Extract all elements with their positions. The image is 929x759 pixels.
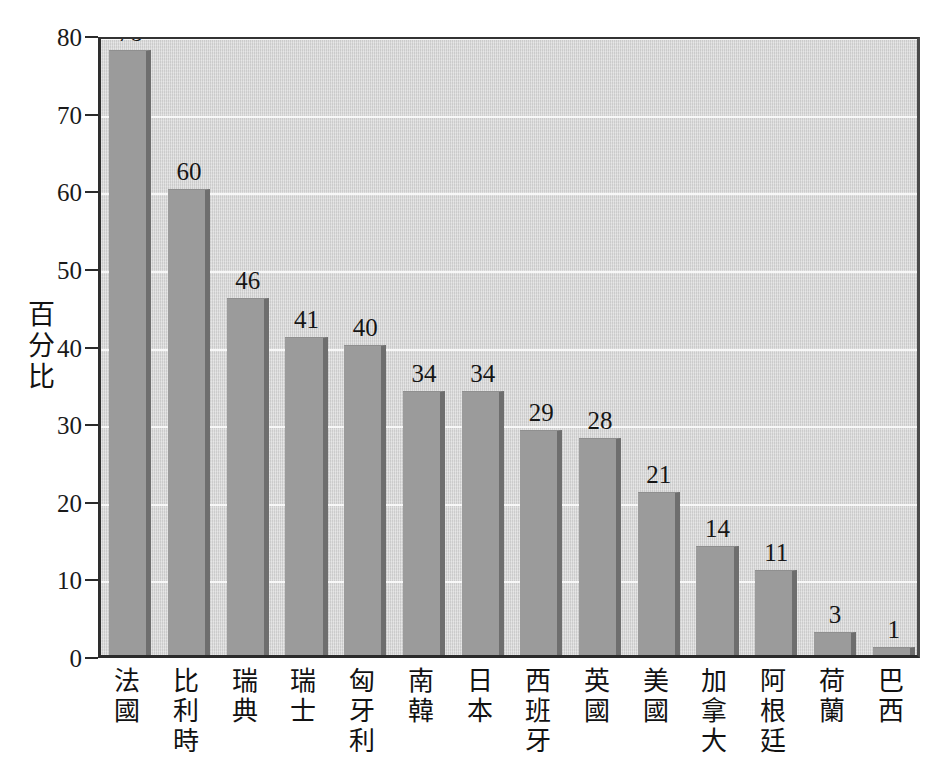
bar (814, 632, 856, 655)
bar-slot: 34 (403, 39, 445, 655)
x-axis-category-label: 阿 根 廷 (744, 666, 803, 756)
bar-series: 78604641403434292821141131 (101, 39, 917, 655)
bar (168, 189, 210, 655)
y-axis-tick-label: 60 (36, 180, 82, 205)
y-axis-tick-mark (85, 502, 98, 504)
x-axis-category-label: 法 國 (98, 666, 157, 726)
bar (579, 438, 621, 655)
bar (873, 647, 915, 655)
bar (696, 546, 738, 655)
bar-chart: 百分比 01020304050607080 786046414034342928… (0, 0, 929, 759)
y-axis-tick-mark (85, 191, 98, 193)
y-axis-tick-label: 80 (36, 25, 82, 50)
bar-value-label: 11 (764, 540, 788, 565)
bar (403, 391, 445, 655)
bar-value-label: 34 (411, 361, 436, 386)
y-axis-tick-mark (85, 424, 98, 426)
bar-value-label: 28 (588, 408, 613, 433)
bar-slot: 46 (227, 39, 269, 655)
bar-value-label: 78 (118, 37, 143, 45)
bar-slot: 60 (168, 39, 210, 655)
x-axis-category-label: 日 本 (450, 666, 509, 726)
y-axis-tick-mark (85, 114, 98, 116)
bar-slot: 29 (520, 39, 562, 655)
y-axis-tick-label: 10 (36, 568, 82, 593)
bar (344, 345, 386, 656)
y-axis-tick-label: 20 (36, 491, 82, 516)
bar (755, 570, 797, 655)
y-axis-tick-mark (85, 269, 98, 271)
y-axis-tick-label: 50 (36, 258, 82, 283)
y-axis-tick-label: 30 (36, 413, 82, 438)
y-axis-tick-label: 70 (36, 103, 82, 128)
bar (285, 337, 327, 655)
bar-value-label: 46 (235, 268, 260, 293)
bar-slot: 11 (755, 39, 797, 655)
x-axis-category-label: 瑞 典 (215, 666, 274, 726)
bar (638, 492, 680, 655)
y-axis-tick-label: 0 (36, 646, 82, 671)
bar (462, 391, 504, 655)
bar-slot: 21 (638, 39, 680, 655)
bar-value-label: 41 (294, 307, 319, 332)
y-axis-tick-mark (85, 36, 98, 38)
y-axis-tick-mark (85, 579, 98, 581)
x-axis-category-label: 荷 蘭 (803, 666, 862, 726)
y-axis-tick-mark (85, 657, 98, 659)
x-axis-category-label: 美 國 (626, 666, 685, 726)
bar-slot: 41 (285, 39, 327, 655)
bar-value-label: 34 (470, 361, 495, 386)
bar-slot: 3 (814, 39, 856, 655)
bar (520, 430, 562, 655)
x-axis-label-group: 法 國比 利 時瑞 典瑞 士匈 牙 利南 韓日 本西 班 牙英 國美 國加 拿 … (98, 666, 920, 759)
bar-value-label: 29 (529, 400, 554, 425)
bar (227, 298, 269, 655)
bar-value-label: 1 (887, 617, 900, 642)
plot-area: 78604641403434292821141131 (98, 37, 920, 658)
x-axis-category-label: 匈 牙 利 (333, 666, 392, 756)
x-axis-category-label: 西 班 牙 (509, 666, 568, 756)
bar-value-label: 14 (705, 516, 730, 541)
bar (109, 50, 151, 655)
bar-slot: 28 (579, 39, 621, 655)
y-axis-tick-label: 40 (36, 336, 82, 361)
bar-value-label: 60 (177, 159, 202, 184)
bar-value-label: 3 (829, 602, 842, 627)
bar-value-label: 40 (353, 315, 378, 340)
x-axis-category-label: 比 利 時 (157, 666, 216, 756)
bar-slot: 1 (873, 39, 915, 655)
x-axis-category-label: 英 國 (568, 666, 627, 726)
bar-slot: 78 (109, 39, 151, 655)
bar-slot: 34 (462, 39, 504, 655)
x-axis-category-label: 巴 西 (861, 666, 920, 726)
y-axis-tick-mark (85, 347, 98, 349)
bar-slot: 14 (696, 39, 738, 655)
bar-slot: 40 (344, 39, 386, 655)
x-axis-category-label: 南 韓 (392, 666, 451, 726)
x-axis-category-label: 瑞 士 (274, 666, 333, 726)
x-axis-category-label: 加 拿 大 (685, 666, 744, 756)
bar-value-label: 21 (646, 462, 671, 487)
